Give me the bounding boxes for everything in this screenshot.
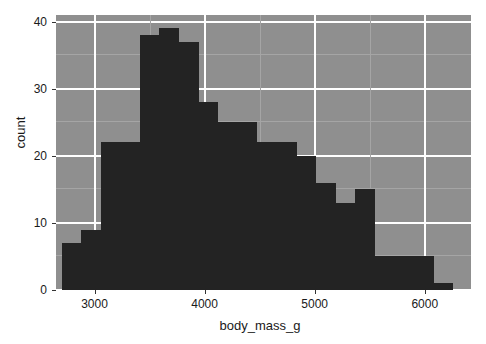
y-tick-mark bbox=[52, 223, 56, 224]
y-tick-label: 40 bbox=[7, 16, 47, 28]
x-tick-mark bbox=[205, 290, 206, 294]
histogram-bar bbox=[336, 203, 356, 290]
histogram-bar bbox=[297, 156, 317, 290]
y-tick-label: 20 bbox=[7, 150, 47, 162]
histogram-bar bbox=[375, 256, 395, 290]
histogram-bar bbox=[316, 183, 336, 290]
x-tick-label: 6000 bbox=[395, 298, 455, 310]
histogram-bar bbox=[277, 142, 297, 290]
y-tick-mark bbox=[52, 290, 56, 291]
histogram-bar bbox=[257, 142, 277, 290]
x-axis-label: body_mass_g bbox=[70, 318, 450, 333]
x-tick-mark bbox=[315, 290, 316, 294]
histogram-bar bbox=[238, 122, 258, 290]
histogram-bar bbox=[159, 28, 179, 290]
gridline-horizontal-minor bbox=[56, 121, 471, 122]
histogram-bar bbox=[218, 122, 238, 290]
y-tick-label: 0 bbox=[7, 284, 47, 296]
gridline-horizontal-minor bbox=[56, 54, 471, 55]
y-tick-label: 10 bbox=[7, 217, 47, 229]
histogram-bar bbox=[81, 230, 101, 290]
histogram-bar bbox=[199, 102, 219, 290]
plot-panel bbox=[56, 15, 471, 290]
histogram-bar bbox=[414, 256, 434, 290]
histogram-bar bbox=[434, 283, 454, 290]
x-tick-label: 3000 bbox=[65, 298, 125, 310]
histogram-bar bbox=[140, 35, 160, 290]
histogram-bar bbox=[355, 189, 375, 290]
gridline-vertical bbox=[424, 15, 426, 290]
gridline-horizontal bbox=[56, 88, 471, 90]
y-tick-mark bbox=[52, 89, 56, 90]
y-tick-label: 30 bbox=[7, 83, 47, 95]
histogram-figure: count body_mass_g 0102030403000400050006… bbox=[0, 0, 486, 344]
y-tick-mark bbox=[52, 156, 56, 157]
histogram-bar bbox=[101, 142, 121, 290]
x-tick-label: 5000 bbox=[285, 298, 345, 310]
histogram-bar bbox=[62, 243, 82, 290]
histogram-bar bbox=[395, 256, 415, 290]
x-tick-mark bbox=[95, 290, 96, 294]
y-tick-mark bbox=[52, 22, 56, 23]
x-tick-label: 4000 bbox=[175, 298, 235, 310]
x-tick-mark bbox=[425, 290, 426, 294]
histogram-bar bbox=[179, 42, 199, 290]
histogram-bar bbox=[120, 142, 140, 290]
gridline-horizontal bbox=[56, 21, 471, 23]
